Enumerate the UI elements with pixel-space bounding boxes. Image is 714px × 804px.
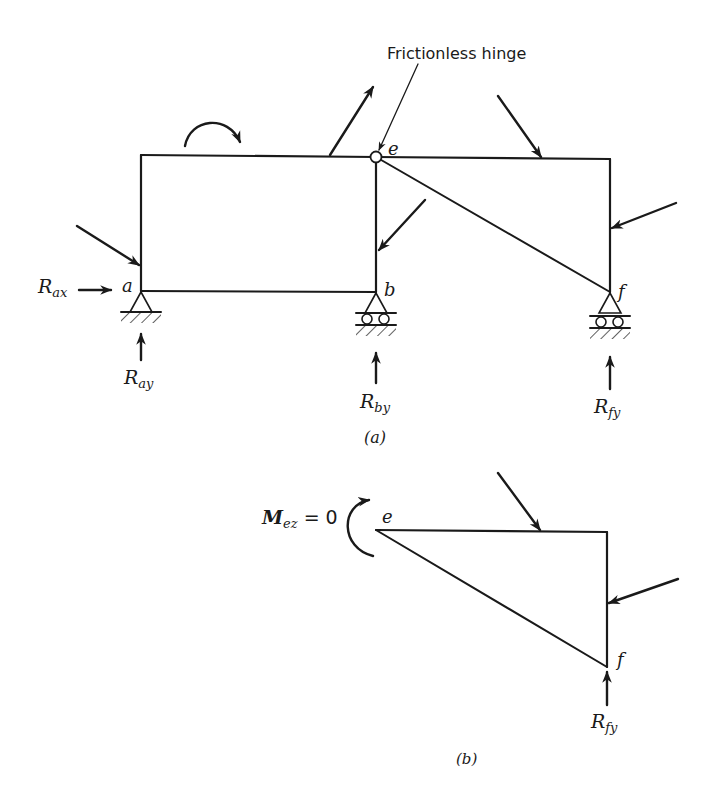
reaction-rfy-label: Rfy: [594, 395, 620, 420]
figure-b-loads: [348, 473, 678, 705]
support-a-pin: [121, 292, 161, 323]
reaction-rby-label: Rby: [360, 390, 390, 415]
node-f-label-b: f: [617, 649, 624, 670]
node-e-label-b: e: [382, 506, 393, 527]
figure-a-structure: [141, 152, 610, 293]
reaction-ray-label: Ray: [124, 366, 153, 391]
moment-mez-label: Mez = 0: [262, 506, 338, 531]
frictionless-hinge-label: Frictionless hinge: [387, 44, 526, 63]
node-f-label: f: [618, 281, 625, 302]
node-a-label: a: [122, 275, 133, 296]
caption-a: (a): [364, 428, 386, 447]
caption-b: (b): [456, 750, 477, 768]
reaction-rax-label: Rax: [38, 275, 67, 300]
reaction-rfy-label-b: Rfy: [591, 710, 617, 735]
node-e-label: e: [388, 138, 399, 159]
figure-b-structure: [376, 530, 607, 667]
node-b-label: b: [384, 279, 396, 300]
